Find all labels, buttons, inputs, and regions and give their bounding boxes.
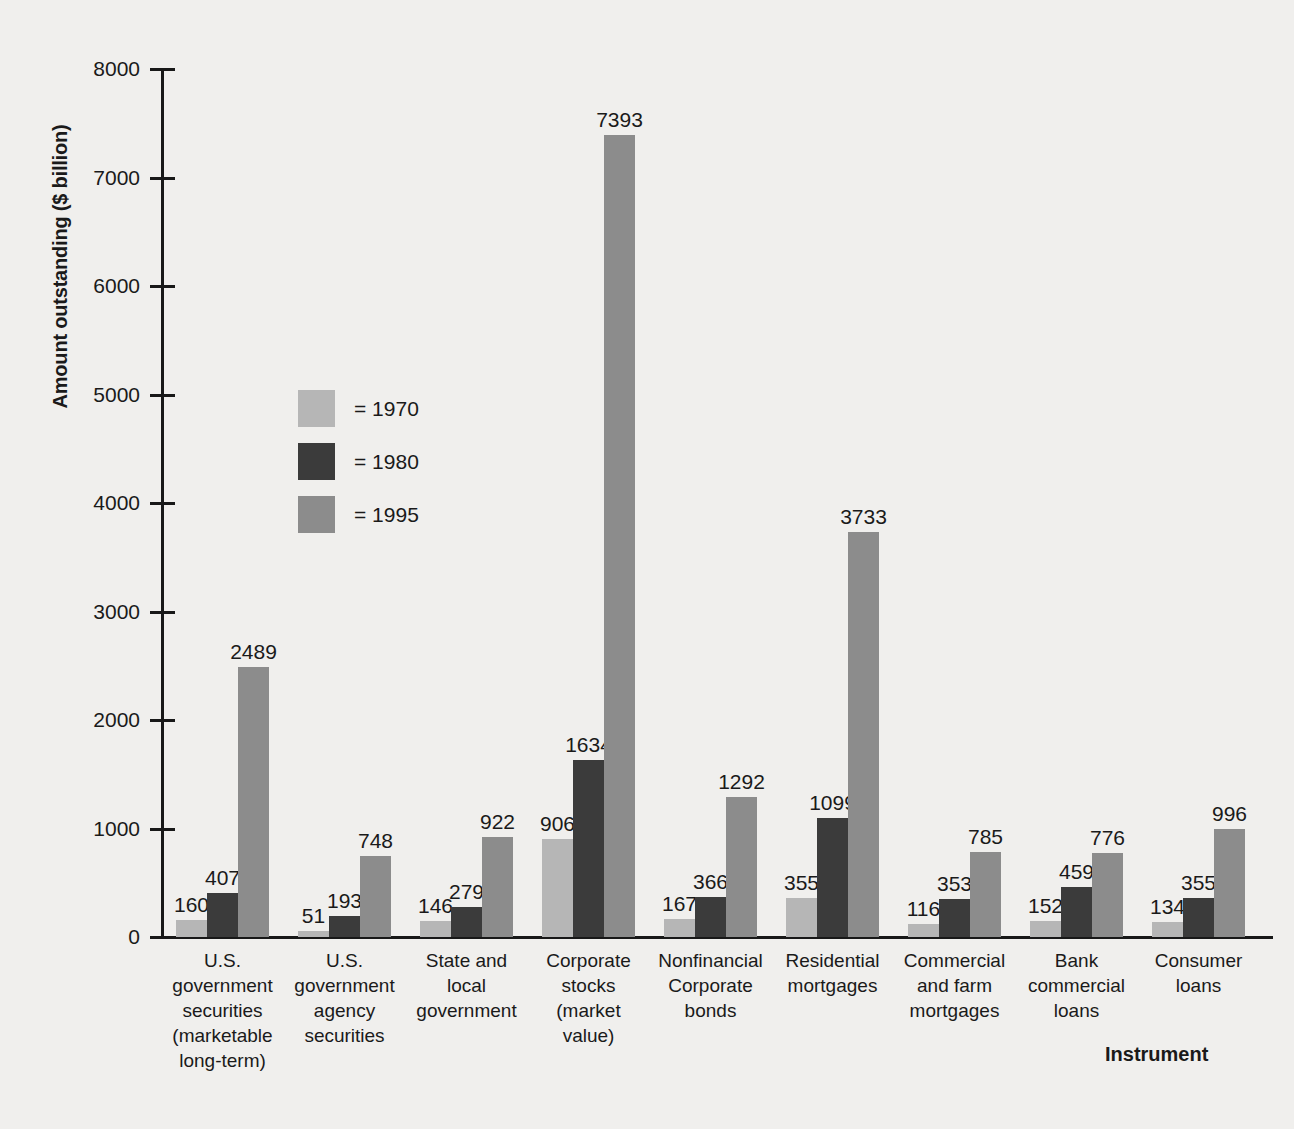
bar [1061, 887, 1092, 937]
bar-value-label: 2489 [219, 641, 289, 663]
x-axis-category-label-line: loans [1002, 998, 1152, 1023]
bar [1092, 853, 1123, 937]
legend-label: = 1980 [354, 451, 419, 472]
bar [786, 898, 817, 937]
bar-value-label: 785 [951, 826, 1021, 848]
legend-item: = 1995 [298, 493, 419, 535]
legend-swatch [298, 443, 335, 480]
bar [848, 532, 879, 937]
bar [695, 897, 726, 937]
legend-label: = 1995 [354, 504, 419, 525]
bar [482, 837, 513, 937]
bar [298, 931, 329, 937]
y-axis-tick-label: 8000 [30, 58, 140, 79]
x-axis-category-label-line: Consumer [1124, 948, 1274, 973]
legend: = 1970= 1980= 1995 [298, 387, 419, 546]
bar [360, 856, 391, 937]
y-axis-tick-label: 3000 [30, 601, 140, 622]
y-axis-tick-label: 5000 [30, 384, 140, 405]
legend-item: = 1980 [298, 440, 419, 482]
y-axis-tick-label: 0 [30, 926, 140, 947]
bar-chart: Amount outstanding ($ billion) Instrumen… [0, 0, 1294, 1129]
bar-value-label: 996 [1195, 803, 1265, 825]
bar [1030, 921, 1061, 937]
bar [908, 924, 939, 937]
bar-value-label: 3733 [829, 506, 899, 528]
bar [1183, 898, 1214, 937]
legend-item: = 1970 [298, 387, 419, 429]
y-axis-tick-label: 6000 [30, 275, 140, 296]
bar [542, 839, 573, 937]
bar [726, 797, 757, 937]
bar [817, 818, 848, 937]
bar [207, 893, 238, 937]
bar [573, 760, 604, 937]
y-axis-tick-label: 4000 [30, 492, 140, 513]
bar-value-label: 748 [341, 830, 411, 852]
x-axis-category-label-line: bonds [636, 998, 786, 1023]
x-axis-category-label-line: loans [1124, 973, 1274, 998]
x-axis-category-label-line: value) [514, 1023, 664, 1048]
y-axis-tick-label: 2000 [30, 709, 140, 730]
x-axis-category-label: Consumerloans [1124, 948, 1274, 998]
bar [451, 907, 482, 937]
bar [664, 919, 695, 937]
y-axis-tick-label: 7000 [30, 167, 140, 188]
bar [1152, 922, 1183, 937]
bar-value-label: 1292 [707, 771, 777, 793]
x-axis-category-label-line: long-term) [148, 1048, 298, 1073]
legend-swatch [298, 496, 335, 533]
bar [329, 916, 360, 937]
bar [970, 852, 1001, 937]
bar-value-label: 776 [1073, 827, 1143, 849]
y-axis-tick-label: 1000 [30, 818, 140, 839]
legend-label: = 1970 [354, 398, 419, 419]
bar [1214, 829, 1245, 937]
bar [176, 920, 207, 937]
x-axis-title: Instrument [1105, 1043, 1208, 1066]
bar [238, 667, 269, 937]
bar [420, 921, 451, 937]
bar [939, 899, 970, 937]
y-axis-title: Amount outstanding ($ billion) [49, 57, 72, 477]
bar [604, 135, 635, 937]
x-axis-category-label-line: securities [270, 1023, 420, 1048]
bar-value-label: 7393 [585, 109, 655, 131]
legend-swatch [298, 390, 335, 427]
